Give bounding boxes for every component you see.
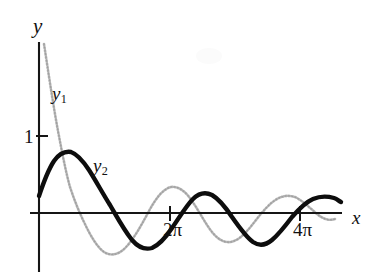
plot-area <box>0 0 374 278</box>
x-tick-label-4pi: 4π <box>293 220 312 239</box>
curve-label-y2-subscript: 2 <box>102 164 108 178</box>
curve-label-y1: y1 <box>52 84 67 105</box>
x-tick-label-2pi: 2π <box>163 220 182 239</box>
figure-canvas: y x y1 y2 1 2π 4π <box>0 0 374 278</box>
x-axis-label: x <box>352 208 360 227</box>
curve-label-y2: y2 <box>93 156 108 177</box>
series-y1-curve <box>44 44 335 254</box>
y-axis-label: y <box>33 16 42 37</box>
curve-label-y1-subscript: 1 <box>61 92 67 106</box>
curve-label-y2-base: y <box>93 155 101 176</box>
curve-label-y1-base: y <box>52 83 60 104</box>
axis-ticks <box>36 136 300 221</box>
y-tick-label-1: 1 <box>24 127 34 146</box>
